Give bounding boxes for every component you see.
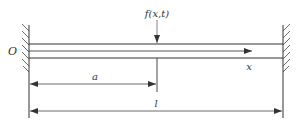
beam-diagram: O f(x,t) x a l: [0, 0, 300, 133]
force-label: f(x,t): [144, 8, 169, 19]
right-fixed-support: [283, 24, 290, 118]
x-axis-label: x: [246, 61, 252, 72]
dimension-l-label: l: [154, 98, 157, 109]
dimension-a-label: a: [92, 71, 98, 82]
origin-label: O: [8, 45, 17, 58]
left-fixed-support: [22, 24, 29, 118]
